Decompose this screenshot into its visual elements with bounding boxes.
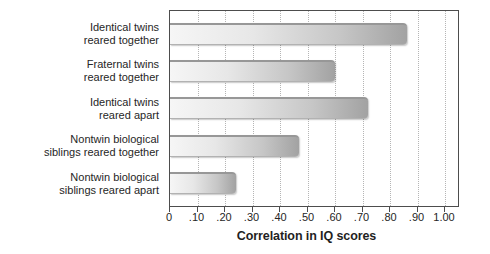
category-label-line: Nontwin biological xyxy=(0,133,159,146)
bar xyxy=(170,135,299,157)
category-label: Identical twinsreared apart xyxy=(0,96,159,122)
bar xyxy=(170,172,236,194)
category-label: Identical twinsreared together xyxy=(0,21,159,47)
category-label-line: siblings reared apart xyxy=(0,184,159,197)
gridline xyxy=(418,11,419,206)
plot-area xyxy=(169,10,459,207)
category-label-line: reared together xyxy=(0,71,159,84)
category-label-line: reared together xyxy=(0,34,159,47)
category-label: Fraternal twinsreared together xyxy=(0,58,159,84)
x-tick-label: 1.00 xyxy=(422,211,466,223)
bar xyxy=(170,23,407,45)
category-label-line: siblings reared together xyxy=(0,146,159,159)
iq-correlation-bar-chart: Identical twinsreared togetherFraternal … xyxy=(0,0,490,254)
bar xyxy=(170,60,335,82)
category-label-line: Nontwin biological xyxy=(0,171,159,184)
gridline xyxy=(445,11,446,206)
category-label: Nontwin biologicalsiblings reared apart xyxy=(0,171,159,197)
bar xyxy=(170,97,368,119)
category-label-line: Identical twins xyxy=(0,21,159,34)
category-label: Nontwin biologicalsiblings reared togeth… xyxy=(0,133,159,159)
category-label-line: reared apart xyxy=(0,109,159,122)
category-label-line: Fraternal twins xyxy=(0,58,159,71)
category-label-line: Identical twins xyxy=(0,96,159,109)
x-axis-title: Correlation in IQ scores xyxy=(169,229,444,243)
